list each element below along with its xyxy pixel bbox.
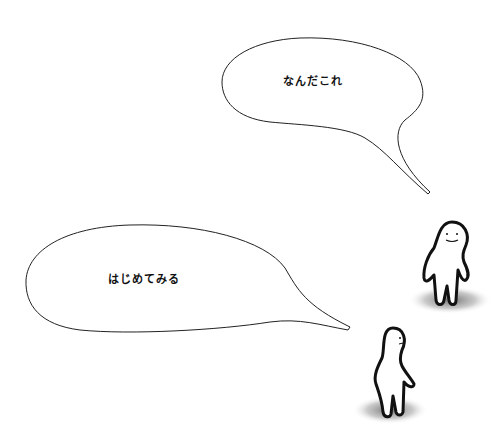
speech-text-upper: なんだこれ — [283, 72, 343, 88]
scene-svg — [0, 0, 498, 448]
speech-text-lower: はじめてみる — [108, 270, 180, 286]
speech-bubble-upper — [222, 38, 430, 194]
speech-bubble-lower — [26, 225, 350, 332]
illustration-scene: なんだこれ はじめてみる — [0, 0, 498, 448]
